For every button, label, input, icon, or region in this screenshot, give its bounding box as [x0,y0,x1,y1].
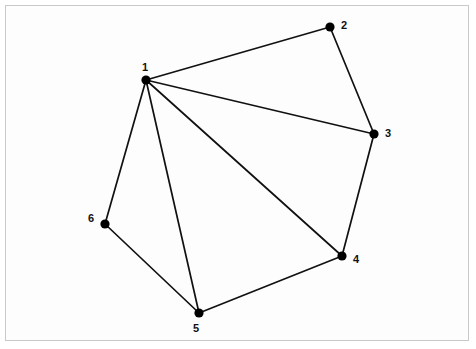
graph-vertex-6 [100,219,109,228]
graph-edge [146,27,330,80]
graph-vertex-5 [194,308,203,317]
graph-edge [342,134,374,256]
graph-vertex-3 [369,129,378,138]
graph-edge [146,80,199,313]
graph-vertex-label-4: 4 [353,254,359,265]
graph-edge [105,224,199,313]
graph-vertex-2 [325,22,334,31]
graph-vertex-1 [141,75,150,84]
graph-vertex-label-5: 5 [193,323,199,334]
graph-edge [105,80,146,224]
graph-vertex-4 [337,251,346,260]
graph-vertex-label-2: 2 [341,20,347,31]
graph-edge [330,27,374,134]
graph-vertex-label-6: 6 [88,213,94,224]
graph-edge [146,80,342,256]
graph-edge [146,80,374,134]
graph-edge [199,256,342,313]
graph-canvas [0,0,476,349]
graph-vertex-label-1: 1 [142,62,148,73]
graph-figure: 123456 [0,0,476,349]
graph-vertex-label-3: 3 [385,128,391,139]
